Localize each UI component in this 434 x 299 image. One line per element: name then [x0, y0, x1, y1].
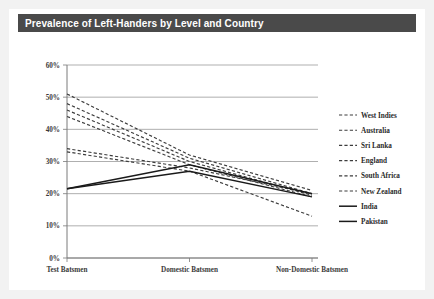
y-axis-tick-label: 40%: [46, 126, 60, 134]
legend-label: South Africa: [361, 172, 400, 180]
y-axis-tick-label: 20%: [46, 190, 60, 198]
x-axis-tick-label: Non-Domestic Batsmen: [276, 266, 348, 274]
series-line: [67, 94, 312, 191]
chart-card: Prevalence of Left-Handers by Level and …: [9, 9, 425, 290]
legend-label: New Zealand: [361, 188, 402, 196]
legend-label: West Indies: [361, 112, 397, 120]
chart-plot-area: 0%10%20%30%40%50%60%Test BatsmenDomestic…: [9, 9, 425, 290]
series-line: [67, 171, 312, 197]
legend-label: India: [361, 203, 378, 211]
y-axis-tick-label: 0%: [49, 255, 60, 263]
line-chart: 0%10%20%30%40%50%60%Test BatsmenDomestic…: [9, 9, 425, 290]
y-axis-tick-label: 10%: [46, 222, 60, 230]
legend-label: Sri Lanka: [361, 142, 392, 150]
y-axis-tick-label: 60%: [46, 62, 60, 70]
series-line: [67, 104, 312, 194]
y-axis-tick-label: 30%: [46, 158, 60, 166]
legend-label: England: [361, 157, 387, 165]
x-axis-tick-label: Test Batsmen: [46, 266, 87, 274]
legend-label: Pakistan: [361, 218, 388, 226]
x-axis-tick-label: Domestic Batsmen: [161, 266, 218, 274]
legend-label: Australia: [361, 127, 390, 135]
y-axis-tick-label: 50%: [46, 94, 60, 102]
